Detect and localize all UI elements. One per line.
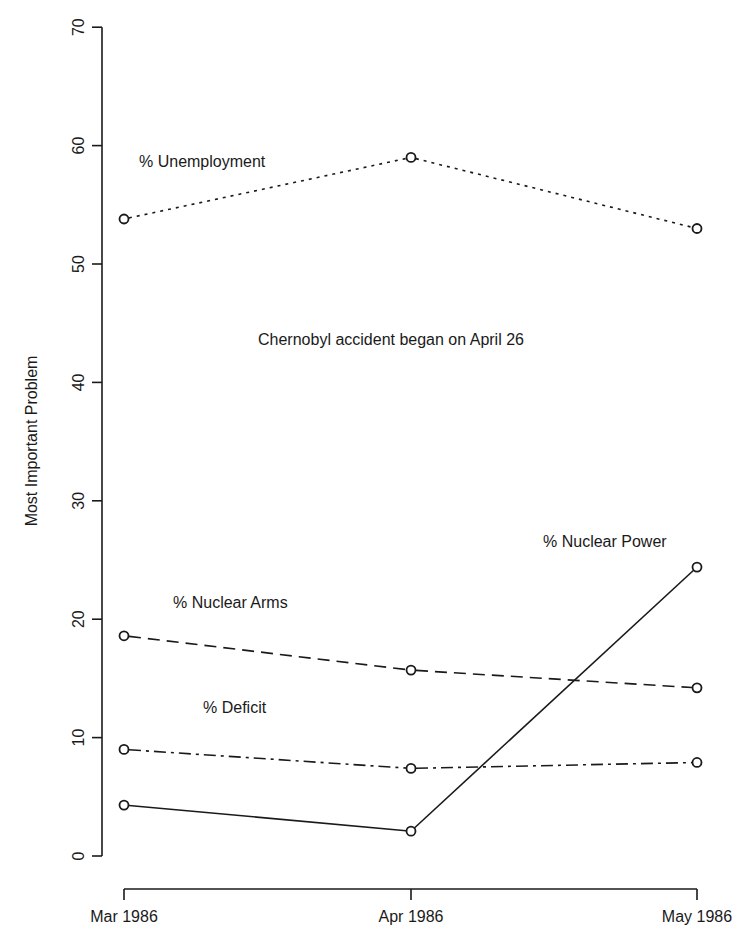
data-point-marker [407, 827, 416, 836]
y-tick-label: 50 [70, 255, 87, 273]
data-point-marker [693, 758, 702, 767]
y-tick-label: 0 [70, 851, 87, 860]
data-point-marker [693, 224, 702, 233]
series-deficit [120, 745, 702, 773]
y-tick-label: 60 [70, 137, 87, 155]
y-axis-label: Most Important Problem [23, 356, 40, 527]
series-lines [120, 153, 702, 836]
y-tick-label: 20 [70, 610, 87, 628]
annotation-label: % Nuclear Arms [173, 594, 288, 611]
data-point-marker [693, 683, 702, 692]
y-tick-label: 10 [70, 729, 87, 747]
annotation-label: % Unemployment [139, 153, 266, 170]
data-point-marker [120, 801, 129, 810]
y-tick-label: 40 [70, 373, 87, 391]
data-point-marker [120, 631, 129, 640]
x-tick-label: May 1986 [662, 908, 732, 925]
data-point-marker [120, 745, 129, 754]
y-tick-label: 70 [70, 18, 87, 36]
x-axis: Mar 1986Apr 1986May 1986 [90, 889, 732, 925]
data-point-marker [407, 666, 416, 675]
annotation-label: Chernobyl accident began on April 26 [258, 331, 524, 348]
data-point-marker [407, 764, 416, 773]
line-chart: 010203040506070 Mar 1986Apr 1986May 1986… [0, 0, 747, 951]
data-point-marker [120, 215, 129, 224]
data-point-marker [693, 563, 702, 572]
y-axis: 010203040506070 [70, 18, 102, 860]
annotations: % UnemploymentChernobyl accident began o… [139, 153, 667, 716]
data-point-marker [407, 153, 416, 162]
series-nuclear-arms [120, 631, 702, 692]
y-tick-label: 30 [70, 492, 87, 510]
x-tick-label: Mar 1986 [90, 908, 158, 925]
annotation-label: % Deficit [203, 699, 267, 716]
annotation-label: % Nuclear Power [543, 533, 667, 550]
x-tick-label: Apr 1986 [379, 908, 444, 925]
